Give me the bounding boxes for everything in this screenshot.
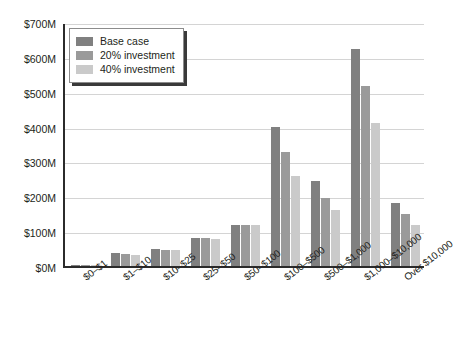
y-axis-tick-label: $100M <box>0 227 56 239</box>
bar <box>201 238 210 266</box>
legend-item: Base case <box>76 35 175 48</box>
legend-swatch-icon <box>76 37 93 46</box>
legend-swatch-icon <box>76 51 93 60</box>
bar-group <box>351 24 380 266</box>
bar-group <box>191 24 220 266</box>
y-axis-tick-label: $700M <box>0 18 56 30</box>
legend-item: 20% investment <box>76 49 175 62</box>
bar <box>241 225 250 266</box>
bar <box>291 176 300 266</box>
bar <box>161 250 170 266</box>
legend-label: Base case <box>100 35 149 48</box>
bar-group <box>231 24 260 266</box>
y-axis-tick-label: $600M <box>0 53 56 65</box>
legend-item: 40% investment <box>76 63 175 76</box>
y-axis-tick-label: $200M <box>0 192 56 204</box>
bar <box>111 253 120 266</box>
bar <box>371 123 380 266</box>
bar-group <box>311 24 340 266</box>
chart-legend: Base case20% investment40% investment <box>69 28 184 83</box>
bar <box>81 265 90 266</box>
y-axis-tick-label: $500M <box>0 88 56 100</box>
bar <box>121 254 130 266</box>
legend-swatch-icon <box>76 65 93 74</box>
y-axis-tick-label: $300M <box>0 157 56 169</box>
bar <box>71 265 80 266</box>
bar-group <box>391 24 420 266</box>
bar-group <box>271 24 300 266</box>
legend-label: 20% investment <box>100 49 175 62</box>
y-axis-tick-label: $0M <box>0 262 56 274</box>
bar <box>331 210 340 266</box>
bar <box>281 152 290 266</box>
bar <box>271 127 280 266</box>
legend-label: 40% investment <box>100 63 175 76</box>
y-axis-tick-label: $400M <box>0 123 56 135</box>
bar <box>351 49 360 266</box>
